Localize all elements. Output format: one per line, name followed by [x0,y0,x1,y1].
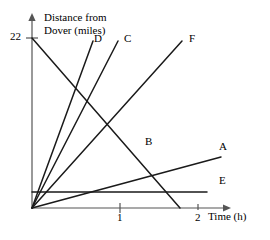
series-lines [32,38,221,208]
series-label-b: B [145,136,152,148]
series-label-c: C [124,33,131,45]
distance-time-chart: Distance from Dover (miles) 22 1 2 Time … [0,0,270,240]
series-line-c [32,41,118,208]
x-tick-label-1: 1 [117,212,123,224]
chart-plot-area [0,0,270,240]
x-tick-label-2: 2 [195,212,201,224]
y-tick-label-22: 22 [10,31,21,43]
series-label-d: D [94,33,102,45]
x-axis-title: Time (h) [208,211,246,223]
y-axis-title-line1: Distance from [44,12,107,24]
series-label-e: E [219,175,226,187]
series-label-f: F [189,33,195,45]
series-line-d [32,41,93,208]
series-line-a [32,157,221,208]
series-label-a: A [219,141,227,153]
x-axis [32,203,231,213]
